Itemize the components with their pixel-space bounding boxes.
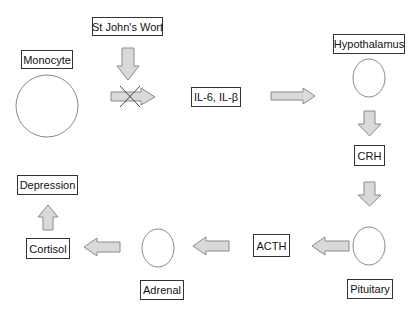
crh-label: CRH <box>354 145 385 166</box>
arrow-down-icon <box>117 48 139 80</box>
arrow-right-icon <box>111 88 155 105</box>
arrow-up-icon <box>38 205 58 230</box>
st-johns-wort-label: St John's Wort <box>92 17 163 36</box>
adrenal-organ <box>142 229 174 267</box>
cortisol-label: Cortisol <box>26 238 70 259</box>
arrow-left-icon <box>312 237 349 255</box>
arrow-down-icon <box>358 182 381 206</box>
arrow-left-icon <box>193 237 229 255</box>
monocyte-cell <box>16 75 78 137</box>
interleukins-label: IL-6, IL-β <box>191 87 241 107</box>
pituitary-organ <box>353 227 385 265</box>
hypothalamus-organ <box>353 59 385 97</box>
arrow-right-icon <box>271 88 315 104</box>
arrow-left-icon <box>84 238 120 256</box>
depression-label: Depression <box>17 175 78 195</box>
arrow-down-icon <box>358 111 381 136</box>
acth-label: ACTH <box>253 234 290 257</box>
pituitary-label: Pituitary <box>347 279 393 299</box>
monocyte-label: Monocyte <box>21 50 73 69</box>
adrenal-label: Adrenal <box>140 280 184 300</box>
hypothalamus-label: Hypothalamus <box>333 34 405 54</box>
